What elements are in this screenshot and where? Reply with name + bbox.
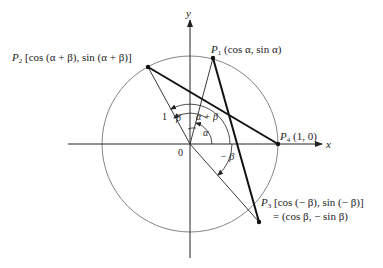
p2-coords: [cos (α + β), sin (α + β)] bbox=[25, 51, 132, 63]
p4-label: P4 (1, 0) bbox=[280, 131, 317, 144]
chord-p1-p3 bbox=[213, 58, 259, 222]
p1-label: P1 (cos α, sin α) bbox=[211, 44, 281, 57]
radius-to-p1 bbox=[190, 58, 213, 144]
radius-label: 1 bbox=[162, 112, 167, 122]
angle-alpha-plus-beta-label: α + β bbox=[196, 112, 218, 122]
p3-sub: 3 bbox=[268, 202, 272, 210]
y-axis-label: y bbox=[186, 8, 191, 19]
p1-sub: 1 bbox=[218, 49, 222, 57]
p1-name: P bbox=[211, 43, 218, 55]
unit-circle-diagram: y x 0 1 P1 (cos α, sin α) P2 [cos (α + β… bbox=[0, 0, 383, 268]
p4-sub: 4 bbox=[287, 136, 291, 144]
p4-coords: (1, 0) bbox=[293, 130, 317, 142]
point-p3 bbox=[257, 220, 261, 224]
origin-label: 0 bbox=[178, 148, 183, 158]
p3-name: P bbox=[261, 196, 268, 208]
p3-coords-simplified: = (cos β, − sin β) bbox=[273, 211, 348, 222]
angle-alpha-label: α bbox=[203, 128, 208, 138]
arc-small-alpha-mark bbox=[188, 128, 196, 129]
angle-minus-beta-label: − β bbox=[220, 152, 234, 162]
p2-name: P bbox=[12, 51, 19, 63]
x-axis-label: x bbox=[326, 139, 331, 150]
p2-label: P2 [cos (α + β), sin (α + β)] bbox=[12, 52, 132, 65]
p3-label: P3 [cos (− β), sin (− β)] bbox=[261, 197, 364, 210]
point-p2 bbox=[146, 65, 150, 69]
angle-beta-label: β bbox=[176, 113, 181, 123]
p3-coords: [cos (− β), sin (− β)] bbox=[274, 196, 364, 208]
p2-sub: 2 bbox=[19, 57, 23, 65]
diagram-graphics bbox=[0, 0, 383, 268]
p1-coords: (cos α, sin α) bbox=[224, 43, 281, 55]
p4-name: P bbox=[280, 130, 287, 142]
chord-p2-p4 bbox=[148, 67, 278, 144]
